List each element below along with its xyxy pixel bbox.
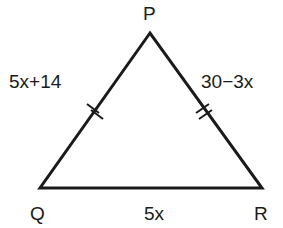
vertex-label-q: Q [30,203,45,224]
vertex-label-r: R [254,203,268,224]
triangle-pqr [40,33,262,188]
side-label-qr: 5x [144,203,165,224]
vertex-label-p: P [143,3,156,24]
side-label-pq: 5x+14 [9,71,62,92]
triangle-diagram: P Q R 5x+14 30−3x 5x [0,0,283,228]
triangle-canvas: P Q R 5x+14 30−3x 5x [0,0,283,228]
side-label-pr: 30−3x [201,71,254,92]
